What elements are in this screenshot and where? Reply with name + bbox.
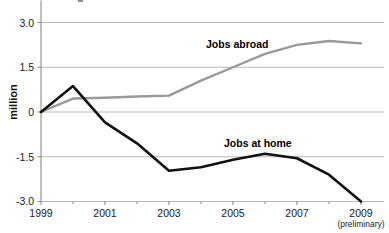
chart-plot-area: [0, 0, 389, 233]
x-tick-label-2007: 2007: [275, 207, 319, 219]
x-tick-label-2003: 2003: [147, 207, 191, 219]
x-tick-label-2009: 2009: [339, 207, 383, 219]
x-axis-preliminary-note: (preliminary): [326, 219, 389, 229]
y-tick-label-3: 3.0: [4, 17, 34, 29]
series-label-jobs-at-home: Jobs at home: [224, 137, 292, 149]
y-tick-label-1point5: 1.5: [4, 61, 34, 73]
y-tick-label-neg3: -3.0: [4, 195, 34, 207]
line-chart: million 3.0 1.5 0 -1.5 -3.0 1999 2001 20…: [0, 0, 389, 233]
series-label-jobs-abroad: Jobs abroad: [206, 38, 268, 50]
x-tick-label-1999: 1999: [19, 207, 63, 219]
x-tick-label-2001: 2001: [83, 207, 127, 219]
data-series-group: [41, 41, 361, 202]
y-axis-title: million: [7, 72, 19, 132]
y-tick-label-0: 0: [4, 106, 34, 118]
x-tick-label-2005: 2005: [211, 207, 255, 219]
y-tick-label-neg1point5: -1.5: [4, 151, 34, 163]
